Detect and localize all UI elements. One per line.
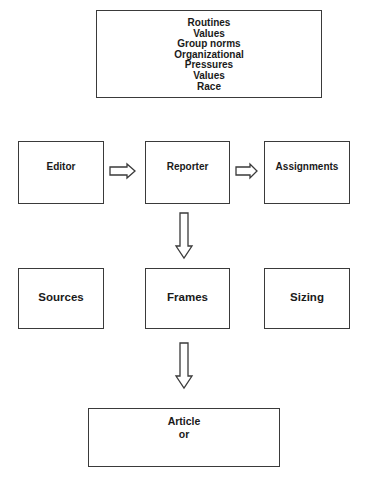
influence-item: Race: [97, 82, 321, 93]
sources-label: Sources: [19, 291, 103, 303]
article-box: Article or: [88, 408, 280, 467]
article-label: Article: [89, 415, 279, 427]
influence-item: Routines: [97, 18, 321, 29]
frames-label: Frames: [146, 291, 229, 303]
reporter-label: Reporter: [146, 161, 229, 172]
influences-box: Routines Values Group norms Organization…: [96, 10, 322, 98]
right-arrow-icon: [109, 163, 137, 179]
editor-label: Editor: [19, 161, 103, 172]
editor-box: Editor: [18, 141, 104, 204]
sources-box: Sources: [18, 268, 104, 329]
influences-list: Routines Values Group norms Organization…: [97, 18, 321, 92]
reporter-box: Reporter: [145, 141, 230, 204]
sizing-box: Sizing: [264, 268, 350, 329]
right-arrow-icon: [235, 163, 259, 179]
down-arrow-icon: [175, 342, 193, 390]
frames-box: Frames: [145, 268, 230, 329]
influence-item: Values: [97, 71, 321, 82]
down-arrow-icon: [175, 212, 193, 260]
article-or-label: or: [89, 428, 279, 440]
assignments-box: Assignments: [264, 141, 350, 204]
sizing-label: Sizing: [265, 291, 349, 303]
assignments-label: Assignments: [265, 161, 349, 172]
